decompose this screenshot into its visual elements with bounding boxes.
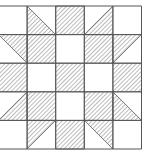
quilt-cell-full <box>27 92 56 121</box>
quilt-cell-tri-br <box>84 6 113 35</box>
quilt-cell-full <box>113 63 142 92</box>
quilt-cell-full <box>56 63 85 92</box>
quilt-cell-tri-bl <box>113 92 142 121</box>
quilt-cell-tri-tr <box>0 35 27 64</box>
quilt-cell-full <box>0 63 27 92</box>
quilt-cell-full <box>56 6 85 35</box>
quilt-cell-tri-tl <box>113 35 142 64</box>
quilt-cells <box>0 6 142 149</box>
quilt-cell-tri-tr <box>84 120 113 149</box>
quilt-cell-full <box>84 35 113 64</box>
quilt-cell-full <box>27 35 56 64</box>
quilt-cell-tri-bl <box>27 6 56 35</box>
quilt-cell-full <box>84 92 113 121</box>
quilt-cell-tri-br <box>0 92 27 121</box>
quilt-cell-tri-tl <box>27 120 56 149</box>
quilt-cell-full <box>56 120 85 149</box>
quilt-pattern-diagram <box>0 0 153 152</box>
